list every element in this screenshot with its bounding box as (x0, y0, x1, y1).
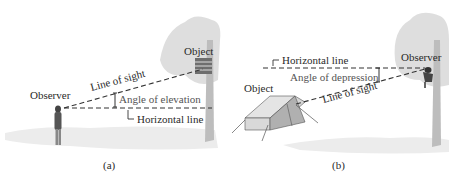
label-observer-b: Observer (401, 52, 441, 63)
ground-shadow (283, 137, 449, 153)
label-object-b: Object (244, 83, 273, 94)
label-angle-of-elevation: Angle of elevation (119, 94, 201, 105)
person-observer-icon (55, 106, 62, 146)
label-observer-a: Observer (30, 90, 70, 101)
caption-a: (a) (103, 160, 115, 171)
label-angle-of-depression: Angle of depression (290, 72, 379, 83)
label-horizontal-line-a: Horizontal line (137, 114, 203, 125)
label-object-a: Object (184, 46, 213, 57)
angle-bracket (113, 93, 117, 107)
caption-b: (b) (332, 160, 345, 171)
tent-icon (232, 96, 318, 141)
horizontal-leader (128, 110, 134, 119)
treehouse-icon (195, 58, 212, 74)
horizontal-leader (273, 60, 279, 66)
label-horizontal-line-b: Horizontal line (282, 55, 348, 66)
tree-foliage (395, 13, 449, 87)
ground-shadow (5, 126, 218, 149)
